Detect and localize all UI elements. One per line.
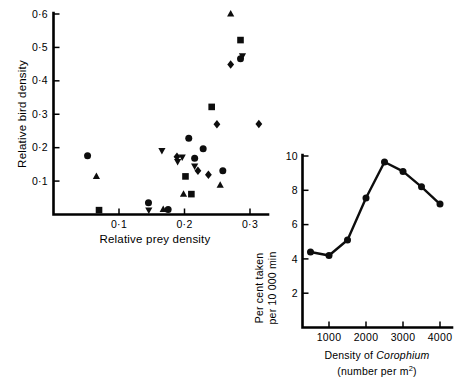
data-point-triangle-up [93, 173, 100, 180]
inset-x-title-genus: Corophium [376, 349, 429, 361]
inset-x-axis-title-line1: Density of Corophium [325, 349, 430, 361]
data-point-circle [165, 206, 172, 213]
inset-y-axis-title-line1: Per cent taken [253, 253, 265, 324]
inset-y-tick-label: 2 [292, 287, 298, 299]
main-scatter-plot: 0·10·20·30·40·50·6 0·10·20·3 Relative bi… [16, 8, 268, 245]
inset-x-tick-label: 2000 [354, 331, 379, 343]
inset-y-axis-title-line2: per 10 000 min [266, 252, 278, 325]
series-triangle-down [145, 53, 246, 214]
inset-x-title-close-paren: ) [413, 365, 417, 377]
data-point-triangle-up [180, 190, 187, 197]
inset-y-tick-label: 8 [292, 184, 298, 196]
inset-data-point [326, 252, 333, 259]
data-point-square [96, 207, 103, 214]
main-x-tick-label: 0·2 [176, 218, 192, 230]
inset-x-title-units: (number per m [337, 365, 409, 377]
main-y-tick-label: 0·4 [32, 74, 48, 86]
main-data-points [84, 10, 262, 214]
series-diamond [174, 60, 263, 179]
inset-x-tick-label: 4000 [428, 331, 453, 343]
main-y-tick-label: 0·5 [32, 41, 48, 53]
inset-y-tick-labels: 246810 [286, 150, 298, 299]
main-x-tick-labels: 0·10·20·3 [111, 218, 258, 230]
inset-y-tick-label: 10 [286, 150, 298, 162]
data-point-triangle-up [217, 181, 224, 188]
data-point-square [182, 173, 189, 180]
data-point-circle [185, 135, 192, 142]
main-axis-spine [54, 13, 269, 215]
main-y-tick-labels: 0·10·20·30·40·50·6 [32, 8, 48, 187]
data-point-circle [191, 155, 198, 162]
figure-panel: 0·10·20·30·40·50·6 0·10·20·3 Relative bi… [0, 0, 461, 381]
main-y-axis-title: Relative bird density [16, 60, 28, 168]
inset-data-point [400, 168, 407, 175]
inset-series-line [311, 162, 441, 255]
inset-axis-spine [303, 155, 453, 328]
main-y-tick-label: 0·1 [32, 175, 48, 187]
series-circle [84, 55, 244, 213]
inset-x-tick-label: 1000 [317, 331, 342, 343]
inset-data-point [344, 237, 351, 244]
inset-data-point [437, 201, 444, 208]
data-point-circle [219, 167, 226, 174]
data-point-circle [145, 199, 152, 206]
main-x-axis-title: Relative prey density [100, 233, 211, 245]
data-point-triangle-down [145, 208, 152, 215]
data-point-circle [84, 152, 91, 159]
data-point-diamond [214, 120, 221, 128]
data-point-square [237, 37, 244, 44]
inset-x-title-prefix: Density of [325, 349, 377, 361]
data-point-square [208, 104, 215, 111]
main-y-tick-label: 0·3 [32, 108, 48, 120]
main-y-tick-label: 0·6 [32, 8, 48, 20]
inset-data-points [307, 159, 444, 259]
series-triangle-up [93, 10, 234, 212]
inset-y-tick-label: 6 [292, 218, 298, 230]
data-point-diamond [227, 60, 234, 68]
data-point-triangle-down [158, 148, 165, 155]
inset-line-plot: 246810 1000200030004000 Per cent taken p… [253, 150, 452, 377]
inset-y-tick-label: 4 [292, 253, 298, 265]
data-point-triangle-up [227, 10, 234, 17]
inset-data-point [381, 159, 388, 166]
data-point-square [188, 191, 195, 198]
main-y-tick-label: 0·2 [32, 141, 48, 153]
inset-x-tick-label: 3000 [391, 331, 416, 343]
figure-svg: 0·10·20·30·40·50·6 0·10·20·3 Relative bi… [0, 0, 461, 381]
main-x-tick-label: 0·3 [242, 218, 258, 230]
data-point-diamond [205, 171, 212, 179]
main-x-tick-label: 0·1 [111, 218, 127, 230]
data-point-diamond [255, 120, 262, 128]
inset-data-point [418, 183, 425, 190]
inset-x-tick-labels: 1000200030004000 [317, 331, 453, 343]
data-point-circle [200, 145, 207, 152]
inset-data-point [363, 195, 370, 202]
inset-x-axis-title-line2: (number per m2) [337, 364, 417, 377]
inset-data-point [307, 249, 314, 256]
